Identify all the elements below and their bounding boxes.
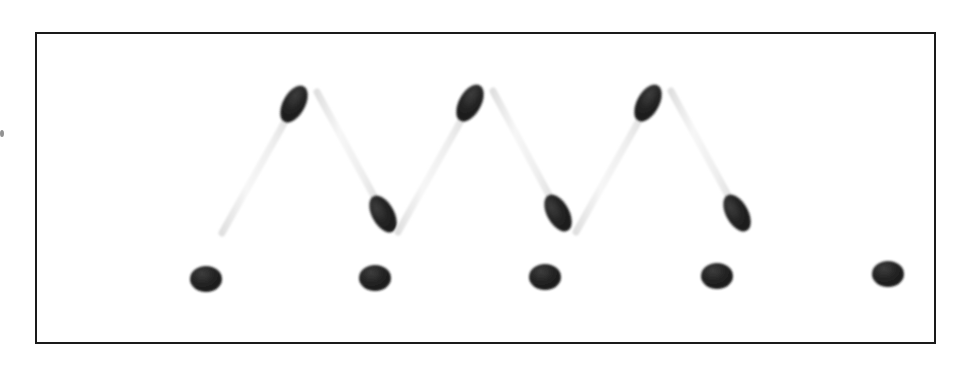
horizontal-match-row-group	[68, 261, 904, 292]
row-match-2	[238, 265, 391, 291]
row-match-1	[68, 266, 222, 292]
match-head	[718, 190, 757, 236]
match-stick	[671, 91, 735, 208]
zigzag-match-6	[671, 91, 756, 236]
match-head	[539, 190, 578, 236]
match-head	[451, 80, 490, 126]
row-match-3	[408, 264, 561, 290]
match-stick	[317, 92, 381, 209]
zigzag-match-3	[398, 80, 489, 232]
row-match-4	[578, 263, 733, 289]
screenshot-canvas: Five matchsticks arranged in a zigzag W …	[0, 0, 955, 373]
match-stick	[493, 91, 556, 208]
match-head	[701, 263, 733, 289]
match-stick	[398, 108, 468, 232]
row-match-5	[750, 261, 904, 287]
zigzag-match-group	[222, 80, 756, 237]
match-head	[275, 81, 314, 127]
match-head	[190, 266, 222, 292]
match-head	[629, 80, 668, 126]
match-head	[359, 265, 391, 291]
zigzag-match-4	[493, 91, 577, 236]
match-stick	[576, 108, 646, 232]
match-stick	[222, 109, 292, 233]
zigzag-match-5	[576, 80, 667, 232]
match-head	[529, 264, 561, 290]
matchsticks-illustration	[0, 0, 955, 373]
zigzag-match-2	[317, 92, 402, 237]
zigzag-match-1	[222, 81, 313, 233]
match-head	[872, 261, 904, 287]
